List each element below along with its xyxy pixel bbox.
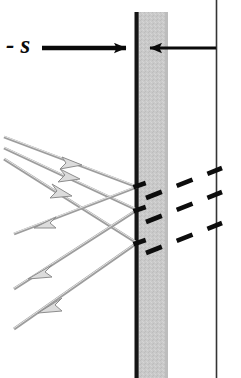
reflected-ray-group xyxy=(14,187,137,329)
reflected-ray-3 xyxy=(14,243,137,329)
incident-ray-group xyxy=(4,137,137,243)
reflected-arrowhead-2 xyxy=(28,265,52,279)
distance-label-negative-s: - s xyxy=(6,32,30,57)
ray-diagram-svg xyxy=(0,0,241,378)
figure-canvas: - s xyxy=(0,0,241,378)
wall-slab-right-edge xyxy=(165,12,168,378)
reflected-ray-1-highlight xyxy=(14,186,137,233)
reflected-arrowhead-3 xyxy=(38,298,62,313)
incident-arrowhead-1 xyxy=(60,157,82,169)
wall-black-line xyxy=(135,12,139,378)
reflected-ray-3-highlight xyxy=(14,242,137,328)
reflected-arrowhead-1 xyxy=(34,217,56,228)
incident-ray-highlights xyxy=(4,136,137,242)
reflected-ray-1 xyxy=(14,187,137,234)
